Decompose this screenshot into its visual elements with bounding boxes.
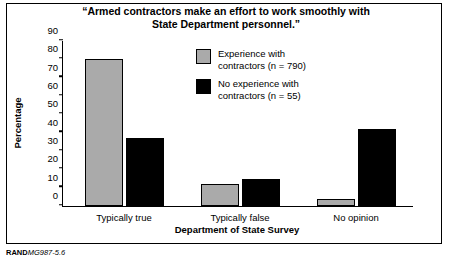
legend-swatch-no-experience-icon: [196, 79, 211, 94]
y-tick-20: 20: [47, 153, 58, 164]
y-tick-0: 0: [53, 190, 58, 201]
x-tick-no-opinion: No opinion: [333, 212, 378, 223]
bar-experience-typically-true: [85, 59, 123, 206]
y-tick-40: 40: [47, 116, 58, 127]
legend-item-no-experience: No experience with contractors (n = 55): [196, 78, 356, 101]
legend-label-experience: Experience with contractors (n = 790): [218, 48, 306, 71]
legend-label-no-experience-line-2: contractors (n = 55): [218, 90, 301, 101]
x-tick-typically-true: Typically true: [96, 212, 151, 223]
chart-figure: “Armed contractors make an effort to wor…: [0, 0, 449, 267]
figure-id: MG987-5.6: [28, 248, 66, 257]
chart-title-line-1: “Armed contractors make an effort to wor…: [46, 5, 406, 18]
bar-experience-typically-false: [201, 184, 239, 206]
y-tick-10: 10: [47, 171, 58, 182]
y-tick-70: 70: [47, 61, 58, 72]
chart-legend: Experience with contractors (n = 790) No…: [196, 48, 356, 108]
legend-label-experience-line-2: contractors (n = 790): [218, 60, 306, 71]
chart-title-line-2: State Department personnel.”: [46, 18, 406, 31]
source-label: RAND: [6, 248, 28, 257]
bar-experience-no-opinion: [317, 199, 355, 206]
x-tick-typically-false: Typically false: [210, 212, 269, 223]
bar-no-experience-no-opinion: [358, 129, 396, 206]
legend-label-no-experience: No experience with contractors (n = 55): [218, 78, 301, 101]
x-axis-label: Department of State Survey: [62, 224, 412, 235]
y-tick-30: 30: [47, 135, 58, 146]
figure-footer: RANDMG987-5.6: [6, 248, 65, 257]
chart-title: “Armed contractors make an effort to wor…: [46, 5, 406, 31]
bar-no-experience-typically-true: [126, 138, 164, 206]
legend-label-no-experience-line-1: No experience with: [218, 78, 299, 89]
legend-item-experience: Experience with contractors (n = 790): [196, 48, 356, 71]
y-tick-80: 80: [47, 43, 58, 54]
y-tick-50: 50: [47, 98, 58, 109]
y-axis-label: Percentage: [12, 97, 23, 148]
y-tick-60: 60: [47, 80, 58, 91]
legend-label-experience-line-1: Experience with: [218, 48, 285, 59]
bar-no-experience-typically-false: [242, 179, 280, 206]
legend-swatch-experience-icon: [196, 49, 211, 64]
y-tick-90: 90: [47, 25, 58, 36]
